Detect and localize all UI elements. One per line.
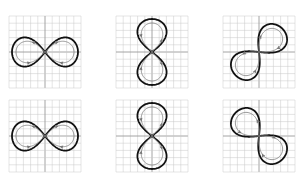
trajectory-panel-p4 — [9, 100, 81, 172]
trajectory-panel-p5 — [116, 100, 188, 172]
trajectory-panel-p6 — [223, 100, 295, 172]
trajectory-panel-p3 — [223, 16, 295, 88]
trajectory-panel-p2 — [116, 16, 188, 88]
trajectory-panel-p1 — [9, 16, 81, 88]
